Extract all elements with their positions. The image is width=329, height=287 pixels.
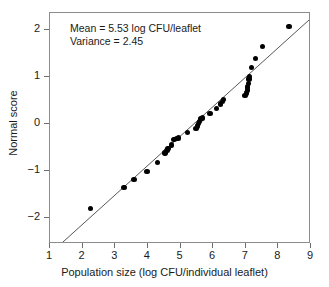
y-axis-tick: [44, 29, 49, 30]
x-axis-tick: [277, 243, 278, 248]
x-axis-tick-label: 3: [99, 249, 129, 262]
x-axis-tick: [310, 243, 311, 248]
data-point: [176, 135, 181, 140]
y-axis-tick: [44, 76, 49, 77]
x-axis-tick-label: 2: [67, 249, 97, 262]
data-point: [131, 177, 136, 182]
data-point: [260, 44, 265, 49]
x-axis-tick-label: 4: [132, 249, 162, 262]
x-axis-tick: [212, 243, 213, 248]
y-axis-tick-label: 2: [8, 23, 40, 34]
annotation-line-variance: Variance = 2.45: [70, 35, 201, 48]
data-point: [185, 130, 190, 135]
x-axis-tick-label: 5: [165, 249, 195, 262]
x-axis-tick-label: 8: [262, 249, 292, 262]
x-axis-tick: [82, 243, 83, 248]
y-axis-tick-label: −2: [8, 211, 40, 222]
data-point: [169, 142, 174, 147]
annotation-line-mean: Mean = 5.53 log CFU/leaflet: [70, 22, 201, 35]
x-axis-tick-label: 1: [34, 249, 64, 262]
x-axis-tick: [245, 243, 246, 248]
x-axis-tick: [114, 243, 115, 248]
data-point: [200, 115, 205, 120]
y-axis-tick: [44, 170, 49, 171]
x-axis-title: Population size (log CFU/individual leaf…: [0, 266, 329, 278]
data-point: [221, 97, 226, 102]
data-point: [88, 206, 93, 211]
data-point: [155, 160, 160, 165]
y-axis-tick: [44, 123, 49, 124]
x-axis-tick-label: 9: [295, 249, 325, 262]
data-point: [121, 185, 126, 190]
normal-probability-plot-figure: Mean = 5.53 log CFU/leaflet Variance = 2…: [0, 0, 329, 287]
x-axis-tick: [49, 243, 50, 248]
y-axis-tick: [44, 217, 49, 218]
x-axis-tick-label: 7: [230, 249, 260, 262]
data-point: [207, 111, 212, 116]
y-axis-title: Normal score: [7, 63, 19, 183]
data-point: [286, 24, 291, 29]
x-axis-tick-label: 6: [197, 249, 227, 262]
x-axis-tick: [147, 243, 148, 248]
x-axis-tick: [180, 243, 181, 248]
statistics-annotation: Mean = 5.53 log CFU/leaflet Variance = 2…: [70, 22, 201, 48]
data-point: [253, 56, 258, 61]
data-point: [144, 169, 149, 174]
data-point: [249, 65, 254, 70]
